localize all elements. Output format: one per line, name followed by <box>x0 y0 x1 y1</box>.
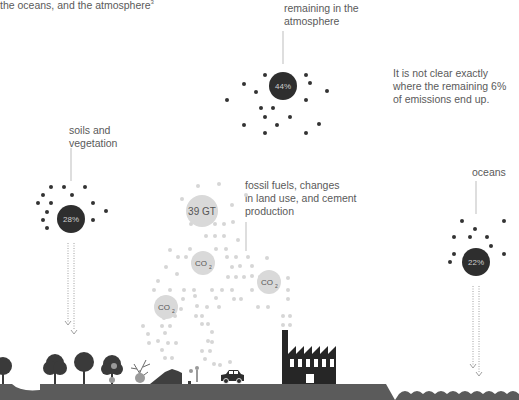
total-emissions-bubble: 39 GT <box>186 195 218 227</box>
leader-lines <box>71 31 476 251</box>
land-percent-circle: 28% <box>57 205 85 233</box>
oceans-percent: 22% <box>468 258 484 267</box>
co2-subscript: 2 <box>275 283 278 289</box>
co2-label: CO <box>261 278 273 287</box>
carbon-flow-infographic: the oceans, and the atmosphere3 remainin… <box>0 0 519 400</box>
total-emissions-value: 39 GT <box>188 206 216 217</box>
burning-tree-icon <box>101 355 123 384</box>
co2-subscript: 2 <box>209 264 212 270</box>
co2-bubble-2: CO 2 <box>257 270 281 294</box>
ground <box>0 384 395 400</box>
co2-label: CO <box>195 259 207 268</box>
tree-icon <box>74 352 94 384</box>
ocean-arrowheads <box>470 364 482 376</box>
co2-bubble-1: CO 2 <box>191 251 215 275</box>
land-absorption-arrows <box>68 243 74 330</box>
co2-bubble-3: CO 2 <box>154 295 178 319</box>
person-icon <box>189 366 199 382</box>
oceans-percent-circle: 22% <box>462 248 490 276</box>
co2-subscript: 2 <box>172 308 175 314</box>
ocean-absorption-arrows <box>473 286 479 373</box>
ocean-waves <box>395 391 519 400</box>
object-icon <box>188 381 191 384</box>
atmosphere-percent-circle: 44% <box>269 72 297 100</box>
tree-icon <box>0 357 12 384</box>
tree-icon <box>43 354 67 384</box>
diagram-graphics: 39 GT CO 2 CO 2 CO 2 <box>0 0 519 400</box>
land-percent: 28% <box>63 215 79 224</box>
land-arrowheads <box>65 321 77 334</box>
factory-icon <box>282 330 336 384</box>
co2-label: CO <box>158 303 170 312</box>
atmosphere-percent: 44% <box>275 82 291 91</box>
debris-pile-icon <box>150 369 182 384</box>
trees <box>0 352 123 384</box>
car-icon <box>221 370 244 384</box>
fire-icon <box>135 373 145 383</box>
